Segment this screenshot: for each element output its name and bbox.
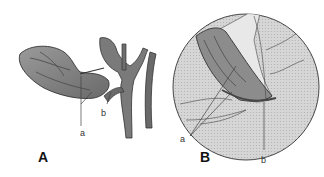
panel-b-illustration	[173, 4, 319, 160]
panel-b-callout-a: a	[180, 134, 185, 144]
panel-a-label: A	[38, 149, 48, 165]
panel-b-callout-b: b	[261, 155, 266, 165]
anatomical-figure: a b A a b B	[0, 0, 324, 177]
panel-a-callout-b: b	[101, 108, 106, 118]
panel-b-label: B	[200, 149, 210, 165]
panel-a-callout-a: a	[80, 128, 85, 138]
panel-a-illustration	[19, 38, 156, 138]
